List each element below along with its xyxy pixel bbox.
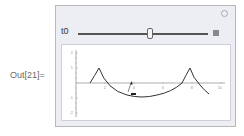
slider-variable-label: t0 [61,26,69,36]
curve-plot: 21-1-2 246810 [62,45,232,122]
t0-slider[interactable] [78,33,208,35]
plot-area: 21-1-2 246810 [61,44,231,121]
svg-text:2: 2 [104,86,106,90]
slider-thumb[interactable] [147,28,153,39]
svg-text:-1: -1 [70,96,73,100]
square-stop-icon[interactable] [213,30,219,36]
svg-text:4: 4 [133,86,135,90]
manipulate-panel: t0 21-1-2 246810 [55,5,236,127]
svg-text:10: 10 [218,86,222,90]
svg-text:-2: -2 [70,111,73,115]
svg-text:1: 1 [71,66,73,70]
svg-text:2: 2 [71,51,73,55]
output-cell-label: Out[21]= [10,70,45,80]
svg-text:6: 6 [162,86,164,90]
plus-circle-icon[interactable] [221,10,228,17]
svg-text:8: 8 [191,86,193,90]
